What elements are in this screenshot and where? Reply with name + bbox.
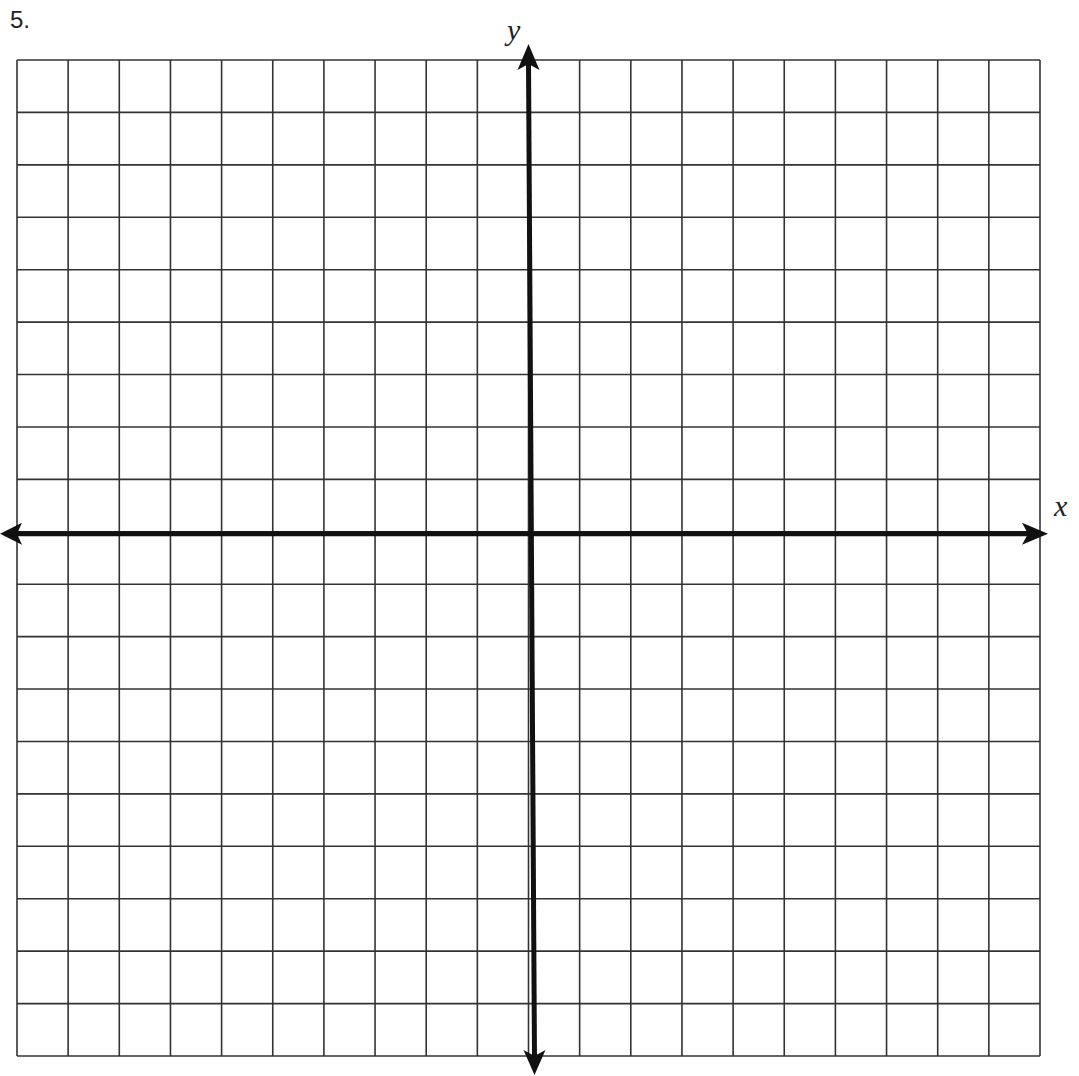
y-axis (529, 62, 535, 1060)
y-axis-label: y (504, 13, 521, 46)
x-axis-label: x (1053, 489, 1068, 522)
coordinate-plane: x y (0, 0, 1079, 1076)
axes (0, 44, 1048, 1075)
